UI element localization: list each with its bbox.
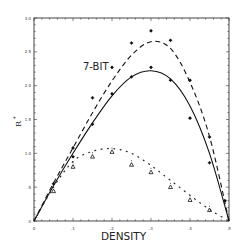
- triangle-marker-tick: [92, 152, 93, 153]
- star-marker: [169, 39, 173, 43]
- star-marker: [169, 78, 173, 82]
- y-tick-label: 1.5: [25, 117, 32, 122]
- star-marker: [130, 41, 134, 45]
- plot-frame: [34, 18, 229, 221]
- triangle-marker: [130, 163, 134, 167]
- triangle-marker: [149, 170, 153, 174]
- y-axis-title-text: R: [14, 120, 23, 127]
- star-marker: [149, 66, 153, 70]
- x-tick-label: 0: [33, 226, 36, 231]
- axis-tick-labels: 0.1.2.3.4.50.51.01.52.02.53.0: [25, 16, 232, 232]
- triangle-marker-tick: [131, 160, 132, 161]
- y-tick-label: 0: [28, 219, 31, 224]
- x-tick-label: .5: [227, 226, 231, 231]
- triangle-marker-tick: [190, 196, 191, 197]
- y-tick-label: .5: [27, 185, 31, 190]
- x-axis-title: DENSITY: [101, 230, 147, 242]
- y-tick-label: 1.0: [25, 151, 32, 156]
- triangle-marker: [52, 189, 56, 193]
- y-tick-label: 2.0: [25, 83, 32, 88]
- dotted-curve: [34, 149, 229, 221]
- x-tick-label: .1: [71, 226, 75, 231]
- triangle-marker: [71, 165, 75, 169]
- triangle-marker-tick: [73, 162, 74, 163]
- triangle-marker: [169, 185, 173, 189]
- triangle-marker-tick: [170, 183, 171, 184]
- triangle-marker: [188, 198, 192, 202]
- triangle-marker-tick: [53, 187, 54, 188]
- annotation-7bit: 7-BIT: [83, 61, 109, 72]
- y-tick-label: 2.5: [25, 49, 32, 54]
- triangle-marker-tick: [151, 168, 152, 169]
- plot-border: [34, 18, 229, 221]
- y-axis-title: R *: [12, 116, 23, 127]
- triangle-marker-tick: [209, 206, 210, 207]
- star-marker: [110, 66, 114, 70]
- chart: 0.1.2.3.4.50.51.01.52.02.53.0 7-BIT DENS…: [0, 0, 242, 246]
- y-tick-label: 3.0: [25, 16, 32, 21]
- star-marker: [91, 96, 95, 100]
- triangle-marker: [91, 155, 95, 159]
- star-marker: [149, 29, 153, 33]
- x-tick-label: .3: [149, 226, 153, 231]
- x-tick-label: .4: [188, 226, 192, 231]
- y-axis-title-sup: *: [12, 116, 18, 119]
- star-marker: [208, 135, 212, 139]
- axis-ticks: [34, 18, 229, 221]
- data-curves: [34, 41, 229, 221]
- solid-curve: [34, 71, 229, 221]
- dashed-curve-7bit: [34, 41, 229, 221]
- triangle-marker: [110, 150, 114, 154]
- star-marker: [208, 161, 212, 165]
- triangle-marker-tick: [112, 147, 113, 148]
- star-marker: [52, 182, 56, 186]
- star-marker: [188, 116, 192, 120]
- data-markers: [52, 29, 227, 212]
